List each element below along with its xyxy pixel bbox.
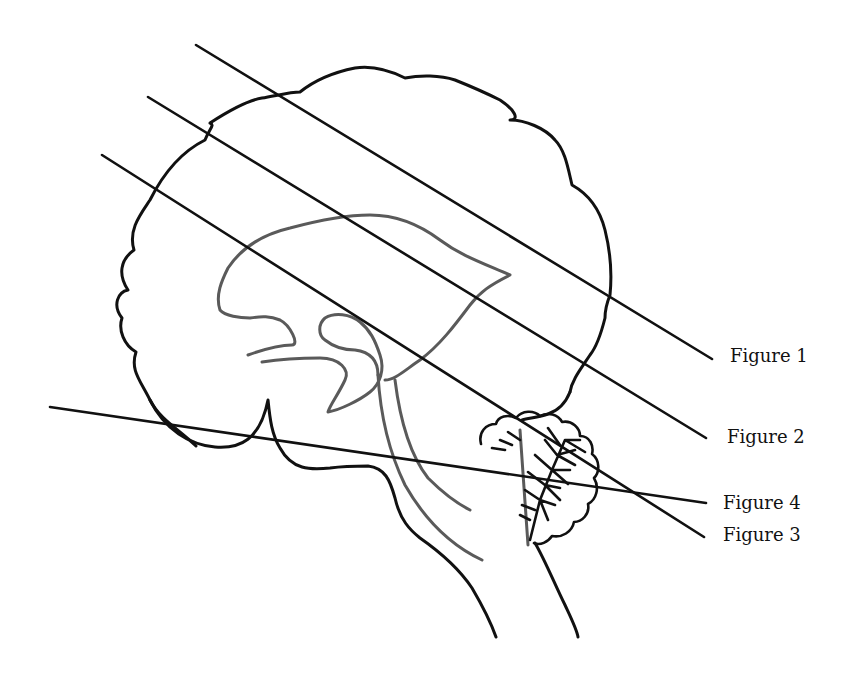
section-line-figure-4 <box>50 407 706 503</box>
fourth-ventricle <box>520 430 528 545</box>
brain-diagram <box>0 0 862 687</box>
thalamus-loop <box>262 315 382 412</box>
label-figure-1: Figure 1 <box>730 347 808 365</box>
label-figure-4: Figure 4 <box>723 494 801 512</box>
brainstem-posterior-outline <box>535 543 578 637</box>
section-line-figure-1 <box>196 45 712 359</box>
occipital-outline <box>522 392 570 420</box>
label-figure-2: Figure 2 <box>727 428 805 446</box>
section-line-figure-2 <box>148 97 706 438</box>
corpus-callosum <box>218 215 510 380</box>
brainstem-posterior <box>395 380 470 510</box>
label-figure-3: Figure 3 <box>723 526 801 544</box>
temporal-base-outline <box>150 400 496 637</box>
